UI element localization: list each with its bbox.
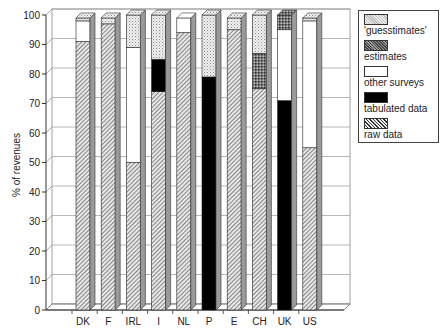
bar-segment: [126, 47, 140, 162]
bar-segment: [278, 101, 292, 310]
bar-segment: [303, 18, 317, 21]
y-tick-label: 20: [29, 246, 41, 257]
bar-segment: [126, 163, 140, 311]
bar-segment: [177, 18, 191, 33]
legend-swatch-icon: [364, 14, 388, 25]
bar-segment: [152, 92, 166, 310]
x-category-label: E: [231, 316, 238, 327]
y-tick-label: 60: [29, 128, 41, 139]
bar-segment: [227, 30, 241, 310]
bar-segment: [202, 15, 216, 77]
bar-e: [227, 13, 246, 310]
bar-segment: [303, 21, 317, 148]
x-category-label: F: [105, 316, 111, 327]
legend-swatch-icon: [364, 66, 388, 77]
legend-label: other surveys: [364, 77, 438, 89]
legend-label: 'guesstimates': [364, 25, 438, 37]
legend-swatch-icon: [364, 40, 388, 51]
bar-us: [303, 13, 322, 310]
legend-label: tabulated data: [364, 103, 438, 115]
bar-p: [202, 10, 221, 310]
legend-item: other surveys: [364, 66, 438, 92]
bar-segment: [252, 15, 266, 53]
bar-nl: [177, 13, 196, 310]
y-tick-label: 50: [29, 157, 41, 168]
x-category-label: CH: [252, 316, 266, 327]
legend: 'guesstimates'estimatesother surveystabu…: [358, 10, 439, 143]
x-category-label: IRL: [126, 316, 142, 327]
bar-segment: [227, 18, 241, 30]
x-category-label: US: [303, 316, 317, 327]
legend-item: raw data: [364, 118, 438, 144]
legend-item: estimates: [364, 40, 438, 66]
y-tick-label: 100: [23, 10, 40, 21]
bar-segment: [76, 42, 90, 310]
x-category-label: I: [157, 316, 160, 327]
y-axis-label: % of revenues: [11, 133, 22, 197]
bar-segment: [101, 18, 115, 24]
bar-segment: [126, 15, 140, 47]
legend-swatch-icon: [364, 92, 388, 103]
legend-item: 'guesstimates': [364, 14, 438, 40]
bar-dk: [76, 13, 95, 310]
x-category-label: NL: [177, 316, 190, 327]
bar-segment: [278, 30, 292, 101]
bar-segment: [76, 18, 90, 21]
y-tick-label: 10: [29, 275, 41, 286]
legend-label: raw data: [364, 129, 438, 141]
bar-segment: [278, 15, 292, 30]
legend-item: tabulated data: [364, 92, 438, 118]
bar-segment: [152, 59, 166, 91]
bar-i: [152, 10, 171, 310]
bar-segment: [101, 24, 115, 310]
bar-f: [101, 13, 120, 310]
bar-segment: [202, 77, 216, 310]
y-tick-label: 30: [29, 216, 41, 227]
x-category-label: UK: [278, 316, 292, 327]
y-tick-label: 70: [29, 98, 41, 109]
legend-swatch-icon: [364, 118, 388, 129]
legend-label: estimates: [364, 51, 438, 63]
x-category-label: P: [206, 316, 213, 327]
bar-segment: [152, 15, 166, 59]
y-tick-label: 90: [29, 39, 41, 50]
x-category-label: DK: [76, 316, 90, 327]
x-axis-labels: DKFIRLINLPECHUKUS: [72, 310, 317, 327]
bar-segment: [303, 148, 317, 310]
bar-segment: [177, 33, 191, 310]
bar-segment: [76, 21, 90, 42]
y-tick-label: 80: [29, 69, 41, 80]
y-tick-label: 40: [29, 187, 41, 198]
bar-segment: [252, 53, 266, 88]
bar-uk: [278, 10, 297, 310]
bar-irl: [126, 10, 145, 310]
bar-segment: [252, 89, 266, 310]
bar-ch: [252, 10, 271, 310]
y-tick-label: 0: [34, 305, 40, 316]
